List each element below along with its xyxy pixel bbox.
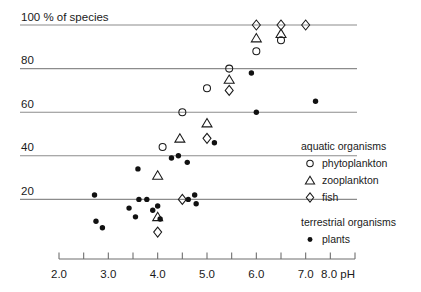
x-tick-label-7: 7.0 [298,268,314,280]
x-axis-group [59,253,355,260]
point-plants [135,166,140,171]
point-plants [169,155,174,160]
point-plants [185,160,190,165]
legend-label-phytoplankton: phytoplankton [322,157,388,169]
y-tick-label-80: 80 [21,54,34,66]
point-plants [212,140,217,145]
point-plants [144,197,149,202]
chart-canvas: 80604020 2.03.04.05.06.07.08.0 pH aquati… [0,0,421,292]
point-zooplankton [202,119,212,127]
point-plants [192,192,197,197]
y-axis-labels-group: 80604020 [21,54,34,197]
series-plants [92,70,318,230]
legend-label-plants: plants [322,233,350,245]
legend-marker-plants [308,237,313,242]
data-points-group [92,20,318,237]
legend-label-fish: fish [322,191,339,203]
point-zooplankton [251,33,261,41]
x-tick-label-6: 6.0 [248,268,264,280]
point-plants [133,214,138,219]
point-plants [254,110,259,115]
series-zooplankton [153,29,286,220]
point-plants [155,203,160,208]
x-tick-label-8: 8.0 pH [321,268,355,280]
point-plants [136,197,141,202]
point-plants [126,205,131,210]
point-fish [154,227,162,237]
x-tick-label-4: 4.0 [150,268,166,280]
point-plants [93,219,98,224]
point-plants [313,99,318,104]
y-tick-label-60: 60 [21,98,34,110]
chart-title: 100 % of species [21,11,109,23]
legend-marker-zooplankton [305,176,314,184]
legend-heading: aquatic organisms [301,140,386,152]
point-zooplankton [153,171,163,179]
point-plants [157,216,162,221]
x-tick-label-2: 2.0 [51,268,67,280]
x-axis-labels-group: 2.03.04.05.06.07.08.0 pH [51,268,355,280]
point-phytoplankton [253,48,260,55]
point-plants [186,197,191,202]
point-plants [249,70,254,75]
point-plants [92,192,97,197]
point-phytoplankton [204,85,211,92]
gridlines-group [20,25,357,199]
legend-marker-fish [306,193,313,202]
point-plants [176,153,181,158]
series-phytoplankton [159,37,284,151]
point-fish [203,133,211,143]
scatter-chart: 80604020 2.03.04.05.06.07.08.0 pH aquati… [0,0,421,292]
point-fish [225,85,233,95]
y-tick-label-40: 40 [21,141,34,153]
legend-label-zooplankton: zooplankton [322,174,379,186]
legend-heading: terrestrial organisms [301,216,396,228]
x-tick-label-3: 3.0 [100,268,116,280]
point-plants [193,201,198,206]
point-zooplankton [224,75,234,83]
y-tick-label-20: 20 [21,185,34,197]
point-phytoplankton [159,144,166,151]
legend-marker-phytoplankton [307,160,313,166]
series-fish [154,20,310,237]
point-zooplankton [175,134,185,142]
point-plants [150,208,155,213]
point-plants [100,225,105,230]
x-tick-label-5: 5.0 [199,268,215,280]
